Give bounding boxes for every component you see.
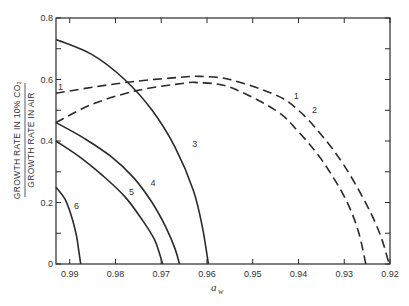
curve-label: 2 — [312, 105, 317, 115]
curve-6 — [56, 187, 81, 264]
x-axis-label: a w — [211, 281, 224, 296]
plot-curves — [56, 40, 389, 265]
curve-label: 4 — [150, 178, 155, 188]
y-axis-label-denominator: GROWTH RATE IN AIR — [26, 92, 36, 187]
curve-label: 6 — [74, 201, 79, 211]
curve-label: 5 — [129, 187, 134, 197]
x-axis-label-subscript: w — [218, 287, 224, 296]
plot-frame — [56, 18, 390, 264]
x-tick-label: 0.93 — [335, 269, 353, 279]
curve-4 — [56, 123, 180, 264]
curve-label: 1 — [58, 82, 63, 92]
curve-5 — [56, 141, 163, 264]
y-tick-label: 0.4 — [40, 136, 53, 146]
x-tick-label: 0.97 — [152, 269, 170, 279]
y-tick-label: 0.2 — [40, 198, 53, 208]
curve-1 — [56, 76, 389, 264]
curve-label: 3 — [192, 139, 197, 149]
x-tick-label: 0.94 — [290, 269, 308, 279]
chart: 0.990.980.970.960.950.940.930.9200.20.40… — [0, 0, 409, 306]
plot-axes: 0.990.980.970.960.950.940.930.9200.20.40… — [40, 13, 398, 279]
y-axis-label-numerator: GROWTH RATE IN 10% CO₂ — [12, 81, 22, 199]
y-axis-label: GROWTH RATE IN 10% CO₂ GROWTH RATE IN AI… — [12, 81, 36, 199]
y-tick-label: 0.8 — [40, 13, 53, 23]
curve-3 — [56, 40, 208, 265]
curve-label: 1 — [294, 91, 299, 101]
x-tick-label: 0.95 — [244, 269, 262, 279]
x-axis-label-a: a — [211, 281, 217, 293]
x-tick-label: 0.98 — [107, 269, 125, 279]
y-tick-label: 0 — [48, 259, 53, 269]
x-tick-label: 0.96 — [198, 269, 216, 279]
curve-2 — [56, 82, 366, 264]
y-tick-label: 0.6 — [40, 75, 53, 85]
x-tick-label: 0.92 — [381, 269, 399, 279]
x-tick-label: 0.99 — [61, 269, 79, 279]
